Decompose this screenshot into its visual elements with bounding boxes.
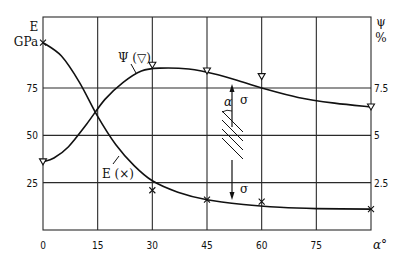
right-axis-symbol: ψ [376, 15, 385, 29]
y-left-tick-label: 25 [27, 178, 38, 189]
x-tick-label: 15 [92, 240, 103, 251]
x-tick-label: 0 [40, 240, 46, 251]
y-right-tick-label: 2.5 [374, 178, 388, 189]
x-tick-label: 30 [147, 240, 159, 251]
psi-leader [131, 64, 136, 73]
left-axis-unit: GPa [14, 35, 38, 49]
y-left-tick-label: 75 [27, 83, 38, 94]
x-tick-label: 45 [201, 240, 212, 251]
triangle-marker [258, 74, 265, 80]
sigma-top: σ [240, 93, 248, 107]
e-curve-label: E (×) [102, 167, 134, 181]
x-tick-label: 60 [256, 240, 268, 251]
left-axis-symbol: E [30, 20, 39, 34]
psi-curve-label: Ψ (▽) [118, 51, 151, 65]
grid [43, 17, 371, 230]
alpha-symbol: α [224, 95, 232, 109]
y-right-tick-label: 7.5 [374, 83, 388, 94]
y-left-tick-label: 50 [27, 130, 39, 141]
right-axis-unit: % [375, 31, 386, 45]
e-leader [113, 156, 119, 164]
x-tick-label: 75 [311, 240, 322, 251]
sigma-bottom: σ [240, 182, 248, 196]
x-axis-symbol: α° [373, 238, 387, 252]
chart: 015304560752550752.557.5 E GPa ψ % α° Ψ … [0, 0, 401, 265]
y-right-tick-label: 5 [374, 130, 380, 141]
